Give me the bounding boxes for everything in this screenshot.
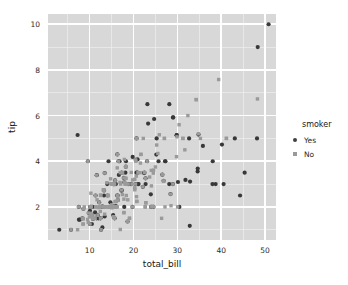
data-point: [121, 193, 124, 196]
data-point: [138, 171, 141, 174]
data-point: [196, 166, 200, 170]
legend-item-no[interactable]: No: [288, 148, 346, 160]
data-point: [119, 182, 122, 185]
data-point: [125, 194, 128, 197]
legend-circle-marker-icon: [288, 134, 302, 146]
data-point: [134, 182, 137, 185]
legend-square-marker-icon: [288, 148, 302, 160]
data-point: [122, 205, 126, 209]
data-point: [130, 171, 133, 174]
y-tick-label: 4: [20, 157, 40, 166]
data-point: [135, 195, 138, 198]
data-point: [214, 182, 218, 186]
data-point: [183, 178, 187, 182]
data-point: [88, 222, 91, 225]
x-tick-label: 30: [173, 246, 183, 255]
data-point: [161, 173, 164, 176]
data-point: [148, 175, 151, 178]
data-point: [169, 192, 172, 195]
data-point: [144, 205, 147, 208]
data-point: [116, 166, 119, 169]
data-point: [175, 135, 178, 138]
data-point: [124, 165, 127, 168]
data-point: [187, 136, 191, 140]
data-point: [76, 133, 80, 137]
data-point: [130, 182, 133, 185]
data-point: [119, 228, 122, 231]
data-point: [114, 205, 117, 208]
data-point: [156, 159, 160, 163]
data-point: [89, 205, 92, 208]
data-point: [112, 182, 115, 185]
legend-item-yes[interactable]: Yes: [288, 134, 346, 146]
data-point: [243, 171, 247, 175]
data-point: [143, 171, 146, 174]
data-point: [103, 171, 106, 174]
data-point: [121, 171, 124, 174]
data-point: [255, 136, 259, 140]
data-point: [158, 133, 161, 136]
x-tick-label: 50: [260, 246, 270, 255]
data-point: [162, 179, 165, 182]
data-point: [171, 182, 174, 185]
data-point: [152, 171, 155, 174]
data-point: [96, 214, 99, 217]
data-point: [183, 148, 186, 151]
data-point: [117, 160, 120, 163]
data-point: [95, 173, 98, 176]
data-point: [197, 132, 200, 135]
data-point: [146, 121, 150, 125]
data-point: [115, 194, 118, 197]
legend-label-yes: Yes: [304, 136, 316, 145]
data-point: [217, 78, 220, 81]
data-point: [225, 137, 228, 140]
data-point: [163, 159, 167, 163]
data-point: [133, 186, 136, 189]
data-point: [150, 184, 153, 187]
data-point: [123, 158, 126, 161]
data-point: [256, 97, 259, 100]
data-point: [201, 144, 205, 148]
data-point: [133, 178, 136, 181]
series-no: [69, 78, 259, 232]
data-point: [233, 136, 237, 140]
data-point: [145, 102, 149, 106]
data-point: [135, 174, 138, 177]
data-point: [94, 194, 97, 197]
data-point: [122, 197, 125, 200]
data-point: [195, 98, 198, 101]
data-point: [152, 117, 156, 121]
data-point: [156, 152, 159, 155]
data-point: [113, 217, 116, 220]
y-axis-title: tip: [7, 121, 17, 133]
data-point: [69, 228, 72, 231]
data-point: [188, 224, 192, 228]
data-point: [76, 228, 79, 231]
data-point: [99, 193, 102, 196]
data-point: [181, 137, 184, 140]
data-point: [77, 205, 80, 208]
data-point: [87, 211, 90, 214]
data-point: [155, 136, 159, 140]
data-point: [122, 211, 125, 214]
data-point: [99, 210, 102, 213]
data-point: [141, 185, 144, 188]
data-point: [154, 165, 157, 168]
data-point: [57, 228, 61, 232]
data-point: [163, 137, 166, 140]
data-point: [171, 115, 175, 119]
data-point: [102, 205, 105, 208]
data-point: [126, 198, 129, 201]
legend-title: smoker: [302, 120, 346, 129]
data-point: [128, 217, 131, 220]
data-point: [139, 161, 142, 164]
data-point: [199, 137, 202, 140]
plot-panel: [48, 14, 276, 240]
data-point: [126, 182, 129, 185]
x-tick-label: 10: [85, 246, 95, 255]
series-yes: [57, 22, 271, 232]
data-point: [144, 177, 147, 180]
data-point: [102, 188, 105, 191]
data-points-layer: [48, 14, 276, 240]
data-point: [149, 192, 153, 196]
